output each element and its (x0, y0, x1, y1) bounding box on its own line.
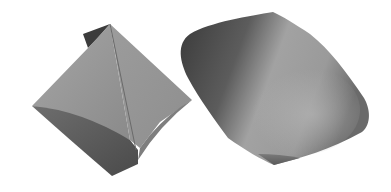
right-solid (181, 12, 369, 165)
scene (0, 0, 391, 192)
left-solid (32, 24, 192, 176)
right-solid-highlight (240, 65, 360, 155)
